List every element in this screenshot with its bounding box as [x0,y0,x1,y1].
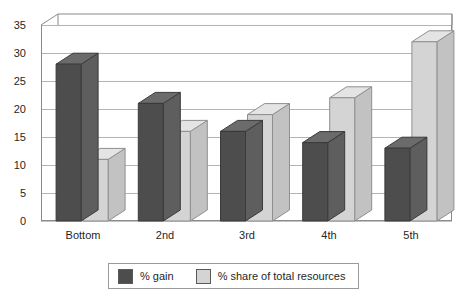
x-axis-labels: Bottom 2nd 3rd 4th 5th [41,229,452,245]
y-tick-label: 5 [20,188,26,199]
y-tick-label: 25 [14,76,26,87]
bar-2nd-series-1 [138,92,180,221]
bar-4th-series-1 [303,132,345,221]
bars-layer [41,25,452,221]
legend-item-gain: % gain [118,269,174,284]
bar-side-face [81,53,98,221]
bars-svg [41,25,452,221]
y-tick-label: 35 [14,20,26,31]
bar-front-face [138,103,163,221]
legend-swatch-icon [118,269,133,284]
y-axis-ticks: 35 30 25 20 15 10 5 0 [0,0,26,301]
y-tick-label: 30 [14,48,26,59]
bar-bottom-series-1 [56,53,98,221]
x-tick-label-5th: 5th [403,229,418,242]
bar-side-face [190,120,207,221]
legend-swatch-icon [196,269,211,284]
y-tick-label: 10 [14,160,26,171]
y-tick-label: 15 [14,132,26,143]
bar-5th-series-1 [385,137,427,221]
bar-front-face [56,64,81,221]
bar-chart: 35 30 25 20 15 10 5 0 Bottom 2nd 3rd 4th… [0,0,464,301]
bar-side-face [246,120,263,221]
bar-side-face [163,92,180,221]
bar-front-face [221,131,246,221]
x-tick-label-3rd: 3rd [239,229,255,242]
bar-side-face [328,132,345,221]
bar-side-face [108,148,125,221]
x-tick-label-4th: 4th [321,229,336,242]
legend-label: % gain [140,270,174,282]
x-tick-label-bottom: Bottom [66,229,101,242]
bar-front-face [303,143,328,221]
bar-side-face [355,87,372,221]
x-tick-label-2nd: 2nd [156,229,174,242]
legend-label: % share of total resources [218,270,346,282]
bar-front-face [385,148,410,221]
y-tick-label: 20 [14,104,26,115]
y-tick-label: 0 [20,216,26,227]
chart-legend: % gain % share of total resources [108,263,359,289]
legend-item-share: % share of total resources [196,269,346,284]
bar-side-face [437,31,454,221]
bar-3rd-series-1 [221,120,263,221]
bar-side-face [273,104,290,221]
bar-side-face [410,137,427,221]
